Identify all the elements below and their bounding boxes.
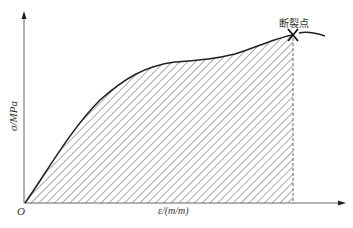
y-axis-arrow-icon bbox=[22, 11, 27, 19]
y-axis bbox=[22, 11, 27, 203]
x-axis-arrow-icon bbox=[338, 201, 346, 206]
stress-strain-diagram bbox=[0, 0, 353, 228]
y-axis-label: σ/MPa bbox=[7, 99, 19, 133]
x-axis-label: ε/(m/m) bbox=[158, 205, 189, 216]
origin-label: O bbox=[17, 205, 25, 217]
hatched-energy-area bbox=[20, 30, 300, 205]
post-break-curve bbox=[299, 32, 325, 36]
break-point-label: 断裂点 bbox=[279, 15, 309, 30]
